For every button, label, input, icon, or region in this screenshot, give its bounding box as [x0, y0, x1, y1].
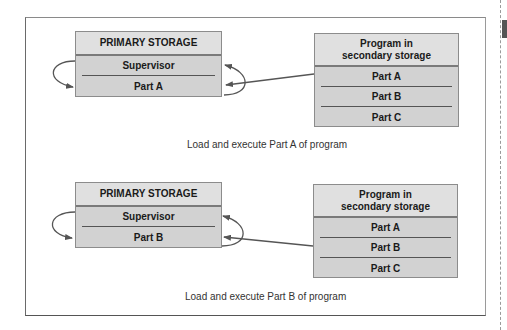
supervisor-loop-arrow-left-2 [52, 212, 75, 238]
load-arrow-2 [224, 237, 313, 246]
return-loop-arrow-right-2 [222, 216, 243, 246]
load-arrow-1 [226, 74, 314, 85]
supervisor-loop-arrow-left-1 [53, 61, 75, 87]
return-loop-arrow-right-1 [224, 65, 245, 95]
flow-arrows [0, 0, 507, 330]
